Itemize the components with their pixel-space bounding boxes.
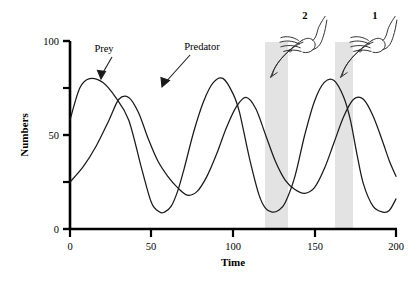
prey-annotation-label: Prey — [94, 43, 114, 54]
predator-annotation-label: Predator — [184, 41, 220, 52]
x-tick-label-0: 0 — [67, 241, 72, 252]
y-tick-label-100: 100 — [43, 36, 59, 47]
x-tick-label-100: 100 — [225, 241, 241, 252]
y-tick-label-0: 0 — [54, 224, 59, 235]
y-tick-label-50: 50 — [49, 130, 60, 141]
x-tick-label-50: 50 — [146, 241, 157, 252]
marker-number-2: 2 — [302, 10, 307, 21]
y-axis-title: Numbers — [18, 113, 30, 157]
x-axis-title: Time — [221, 256, 245, 268]
predator-prey-chart: 100 50 0 0 50 100 150 200 Time Numbers P… — [0, 0, 420, 283]
x-tick-label-150: 150 — [307, 241, 323, 252]
highlight-band-2 — [265, 42, 288, 229]
marker-number-1: 1 — [372, 10, 377, 21]
x-tick-label-200: 200 — [388, 241, 404, 252]
